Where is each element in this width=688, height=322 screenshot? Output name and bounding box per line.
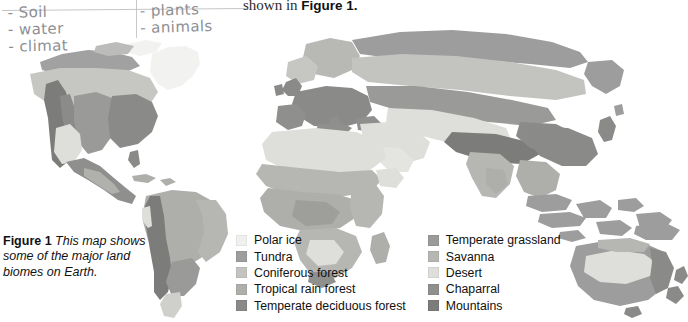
legend-swatch-desert bbox=[428, 267, 439, 278]
legend-swatch-mountains bbox=[428, 300, 439, 311]
legend-item-savanna: Savanna bbox=[428, 249, 561, 263]
body-text-prefix: shown in bbox=[243, 0, 301, 13]
figure-caption-label: Figure 1 bbox=[3, 234, 52, 248]
legend-label-savanna: Savanna bbox=[446, 250, 495, 264]
legend-label-desert: Desert bbox=[446, 266, 482, 280]
legend-item-temperate-deciduous-forest: Temperate deciduous forest bbox=[236, 299, 406, 313]
pencil-vertical-rule bbox=[136, 0, 137, 38]
legend-swatch-temperate-deciduous-forest bbox=[236, 300, 247, 311]
legend-swatch-coniferous-forest bbox=[236, 267, 247, 278]
legend-item-tropical-rain-forest: Tropical rain forest bbox=[236, 282, 406, 296]
handwritten-line-climat: - climat bbox=[8, 37, 68, 55]
legend-swatch-tundra bbox=[236, 251, 247, 262]
region-australia bbox=[570, 222, 680, 318]
legend-item-tundra: Tundra bbox=[236, 249, 406, 263]
figure-reference: Figure 1. bbox=[301, 0, 357, 13]
figure-caption: Figure 1 This map shows some of the majo… bbox=[3, 234, 155, 280]
legend-item-polar-ice: Polar ice bbox=[236, 233, 406, 247]
legend-item-coniferous-forest: Coniferous forest bbox=[236, 266, 406, 280]
legend-swatch-polar-ice bbox=[236, 235, 247, 246]
legend-item-desert: Desert bbox=[428, 266, 561, 280]
legend-label-temperate-deciduous-forest: Temperate deciduous forest bbox=[254, 299, 406, 313]
legend-label-tropical-rain-forest: Tropical rain forest bbox=[254, 282, 355, 296]
legend-item-temperate-grassland: Temperate grassland bbox=[428, 233, 561, 247]
legend-item-chaparral: Chaparral bbox=[428, 282, 561, 296]
scanned-textbook-page: shown in Figure 1. - Soil - water - clim… bbox=[0, 0, 688, 322]
legend-item-mountains: Mountains bbox=[428, 299, 561, 313]
map-legend: Polar ice Tundra Coniferous forest Tropi… bbox=[236, 233, 561, 313]
handwritten-line-animals: - animals bbox=[140, 18, 213, 37]
handwritten-note-right: - plants - animals bbox=[140, 1, 213, 37]
legend-swatch-chaparral bbox=[428, 284, 439, 295]
legend-column-1: Polar ice Tundra Coniferous forest Tropi… bbox=[236, 233, 406, 313]
legend-swatch-temperate-grassland bbox=[428, 235, 439, 246]
legend-label-coniferous-forest: Coniferous forest bbox=[254, 266, 348, 280]
legend-swatch-savanna bbox=[428, 251, 439, 262]
legend-label-mountains: Mountains bbox=[446, 299, 503, 313]
legend-label-temperate-grassland: Temperate grassland bbox=[446, 233, 561, 247]
body-text-fragment: shown in Figure 1. bbox=[243, 0, 358, 14]
legend-swatch-tropical-rain-forest bbox=[236, 284, 247, 295]
legend-column-2: Temperate grassland Savanna Desert Chapa… bbox=[428, 233, 561, 313]
legend-label-tundra: Tundra bbox=[254, 250, 293, 264]
legend-label-chaparral: Chaparral bbox=[446, 282, 500, 296]
handwritten-note-left: - Soil - water - climat bbox=[7, 3, 68, 55]
legend-label-polar-ice: Polar ice bbox=[254, 233, 302, 247]
